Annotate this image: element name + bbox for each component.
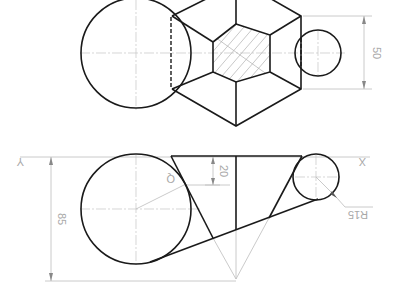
- left-slant-edge: [171, 156, 213, 238]
- front-view: Y X 85 Q 20: [16, 154, 373, 281]
- radius-leader: [337, 198, 345, 207]
- arrow-icon: [211, 178, 215, 185]
- dimension-85-label: 85: [56, 213, 68, 225]
- dimension-20-label: 20: [218, 165, 230, 177]
- dimension-50-label: 50: [371, 47, 383, 59]
- axis-label-y: Y: [16, 156, 24, 168]
- top-view: 50: [80, 0, 383, 126]
- section-hatching: [180, 20, 300, 90]
- tangent-line: [150, 199, 318, 262]
- angle-label: Q: [166, 173, 175, 185]
- construction-line: [213, 238, 236, 279]
- hex-edge: [172, 0, 212, 16]
- hex-inner-edge: [270, 16, 301, 35]
- hex-inner-edge: [172, 72, 213, 89]
- arrow-icon: [362, 81, 366, 89]
- arrow-icon: [49, 157, 53, 165]
- arrow-icon: [362, 16, 366, 24]
- hex-inner-edge: [172, 16, 213, 42]
- radius-r15-label: R15: [348, 209, 368, 221]
- axis-label-x: X: [358, 156, 366, 168]
- arrow-icon: [211, 157, 215, 164]
- radius-line: [136, 185, 184, 209]
- drawing-canvas: 50 Y X 85 Q 20: [0, 0, 401, 298]
- arrow-icon: [49, 273, 53, 281]
- hex-inner-edge: [270, 72, 301, 89]
